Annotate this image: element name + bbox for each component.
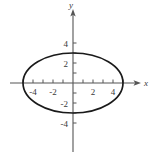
x-tick-label-neg2: -2 (49, 87, 57, 97)
y-tick-label-pos2: 2 (64, 59, 69, 69)
coordinate-plane-svg: -4 -2 2 4 4 2 -2 -4 x y (0, 0, 154, 159)
y-tick-label-neg2: -2 (61, 99, 69, 109)
x-tick-label-pos2: 2 (91, 87, 96, 97)
y-axis-label: y (68, 0, 73, 10)
graph-figure: -4 -2 2 4 4 2 -2 -4 x y (0, 0, 154, 159)
y-tick-label-neg4: -4 (61, 119, 69, 129)
x-tick-label-neg4: -4 (29, 87, 37, 97)
x-tick-label-pos4: 4 (111, 87, 116, 97)
y-tick-label-pos4: 4 (64, 39, 69, 49)
x-axis-label: x (143, 78, 148, 88)
